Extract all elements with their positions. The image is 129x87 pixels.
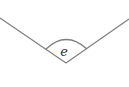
angle-label: e (60, 44, 68, 59)
left-ray (0, 18, 66, 63)
angle-diagram: e (0, 0, 129, 87)
